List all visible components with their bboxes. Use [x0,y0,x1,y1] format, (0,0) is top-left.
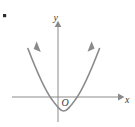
x-axis-label: x [124,94,130,105]
coordinate-plane-svg: y x O [0,0,135,127]
y-axis-label: y [53,12,59,23]
parabola-right-arrow-icon [88,41,95,52]
parabola-left-arrow-icon [34,41,41,52]
origin-label: O [62,97,69,108]
x-axis-arrow-icon [118,94,125,101]
list-bullet-icon [3,14,6,17]
parabola-figure: y x O [0,0,135,127]
